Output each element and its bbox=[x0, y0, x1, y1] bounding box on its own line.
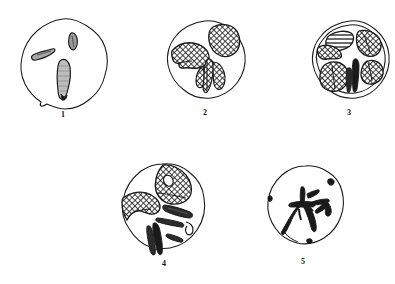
figure-3 bbox=[308, 18, 392, 104]
figure-5-nodule-top-right bbox=[328, 179, 335, 186]
figure-2 bbox=[163, 18, 249, 104]
figure-4-label: 4 bbox=[144, 259, 184, 269]
figure-2-hatch-upper-right bbox=[209, 25, 240, 57]
figure-5-stellate-structure bbox=[281, 187, 331, 235]
figure-3-plate-top-right bbox=[356, 30, 381, 56]
figure-5-nodule-left bbox=[268, 196, 272, 202]
figure-3-label: 3 bbox=[329, 108, 369, 118]
figure-1-marking-left bbox=[32, 49, 55, 60]
figure-3-drawing bbox=[308, 18, 392, 104]
figure-4 bbox=[118, 160, 212, 258]
figure-4-hatch-top bbox=[155, 165, 191, 204]
figure-1-marking-upper bbox=[69, 33, 78, 50]
illustration-plate: 1 bbox=[0, 0, 395, 284]
figure-5-drawing bbox=[263, 163, 347, 251]
figure-4-drawing bbox=[118, 160, 212, 258]
figure-5 bbox=[263, 163, 347, 251]
figure-5-nodule-bottom bbox=[307, 239, 313, 244]
figure-1 bbox=[14, 14, 114, 114]
figure-1-label: 1 bbox=[43, 110, 83, 120]
figure-4-eyelet bbox=[164, 175, 174, 186]
figure-1-drawing bbox=[14, 14, 114, 114]
figure-3-bar-centre bbox=[346, 59, 359, 93]
figure-2-drawing bbox=[163, 18, 249, 104]
figure-4-bar-long-left bbox=[147, 223, 163, 255]
figure-4-bar-bottom-centre bbox=[166, 234, 183, 242]
figure-4-bar-upper-right bbox=[163, 205, 193, 218]
figure-4-hatch-left bbox=[122, 192, 160, 220]
figure-4-hook-right bbox=[186, 222, 194, 235]
figure-3-plate-bottom-left bbox=[320, 62, 349, 91]
figure-3-plate-right bbox=[361, 60, 383, 84]
figure-4-bar-middle bbox=[156, 218, 184, 227]
figure-5-label: 5 bbox=[283, 257, 323, 267]
figure-2-hatch-left bbox=[172, 43, 210, 68]
figure-2-label: 2 bbox=[185, 108, 225, 118]
figure-1-marking-central bbox=[57, 59, 70, 100]
